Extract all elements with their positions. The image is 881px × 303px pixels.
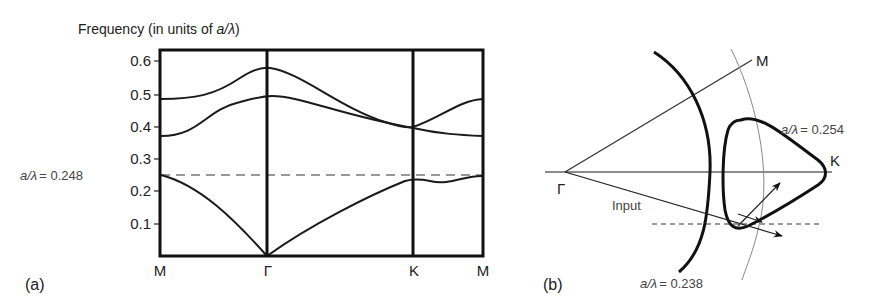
y-tick-label: 0.1 xyxy=(130,215,151,232)
input-label: Input xyxy=(612,198,641,213)
contour-label-0238: a/λ= 0.238 xyxy=(640,276,703,291)
contour-label-0254: a/λ= 0.254 xyxy=(781,122,844,137)
x-tick-label: K xyxy=(409,262,419,279)
refracted-arrow xyxy=(738,214,762,222)
band-3 xyxy=(161,68,483,128)
m-label: M xyxy=(756,52,769,69)
bands xyxy=(161,68,483,256)
contour-diagram: Γ M K Input a/λ= 0.254 a/λ= 0.238 (b) xyxy=(543,49,844,293)
y-tick-label: 0.4 xyxy=(130,118,151,135)
figure-canvas: Frequency (in units of a/λ) 0.6 0.5 0.4 … xyxy=(0,0,881,303)
input-arrow xyxy=(565,172,782,236)
band-1 xyxy=(161,175,483,256)
y-tick-label: 0.5 xyxy=(130,86,151,103)
x-axis-labels: M Γ K M xyxy=(154,262,490,279)
y-tick-label: 0.6 xyxy=(130,52,151,69)
panel-b-label: (b) xyxy=(543,276,563,293)
y-tick-label: 0.3 xyxy=(130,150,151,167)
reference-arc xyxy=(731,49,764,280)
band-diagram: Frequency (in units of a/λ) 0.6 0.5 0.4 … xyxy=(20,21,489,293)
panel-a-label: (a) xyxy=(25,276,45,293)
plot-frame xyxy=(160,50,483,256)
x-tick-label: M xyxy=(477,262,490,279)
k-label: K xyxy=(830,152,840,169)
gamma-label: Γ xyxy=(557,180,565,197)
x-tick-label: Γ xyxy=(264,262,272,279)
y-tick-label: 0.2 xyxy=(130,182,151,199)
frequency-annotation: a/λ= 0.248 xyxy=(20,168,83,183)
contour-0238 xyxy=(654,52,710,272)
y-axis-title: Frequency (in units of a/λ) xyxy=(78,21,240,37)
y-axis-labels: 0.6 0.5 0.4 0.3 0.2 0.1 xyxy=(130,52,151,232)
x-tick-label: M xyxy=(154,262,167,279)
band-2 xyxy=(161,96,483,136)
